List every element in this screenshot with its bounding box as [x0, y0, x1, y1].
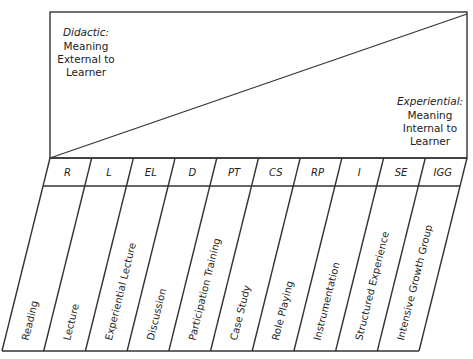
column-abbr-r: R — [64, 167, 71, 178]
column-abbr-l: L — [106, 167, 112, 178]
column-abbr-igg: IGG — [433, 167, 452, 178]
didactic-line-1: Meaning — [64, 40, 109, 52]
column-abbr-i: I — [358, 167, 361, 178]
column-abbr-rp: RP — [311, 167, 325, 178]
experiential-title: Experiential: — [397, 95, 463, 107]
experiential-line-3: Learner — [410, 135, 451, 147]
column-abbr-se: SE — [395, 167, 408, 178]
column-label-igg: Intensive Growth Group — [395, 224, 434, 342]
column-label-d: Discussion — [145, 287, 169, 341]
methods-table: RReadingLLectureELExperiential LectureDD… — [2, 158, 467, 351]
column-abbr-el: EL — [145, 167, 157, 178]
column-label-l: Lecture — [61, 303, 81, 342]
experiential-line-1: Meaning — [408, 109, 453, 121]
learning-methods-diagram: Didactic: Meaning External to Learner Ex… — [0, 0, 473, 359]
didactic-line-2: External to — [57, 53, 114, 65]
column-abbr-d: D — [189, 167, 197, 178]
column-label-r: Reading — [20, 299, 40, 341]
column-label-se: Structured Experience — [353, 230, 391, 341]
column-label-cs: Case Study — [228, 284, 252, 342]
column-label-i: Instrumentation — [312, 261, 342, 342]
column-label-rp: Role Playing — [270, 280, 295, 342]
column-abbr-cs: CS — [269, 167, 283, 178]
column-abbr-pt: PT — [228, 167, 241, 178]
top-panel: Didactic: Meaning External to Learner Ex… — [50, 12, 467, 158]
experiential-line-2: Internal to — [403, 122, 457, 134]
didactic-line-3: Learner — [66, 66, 107, 78]
diagonal-divider — [50, 14, 467, 158]
didactic-title: Didactic: — [63, 26, 109, 38]
